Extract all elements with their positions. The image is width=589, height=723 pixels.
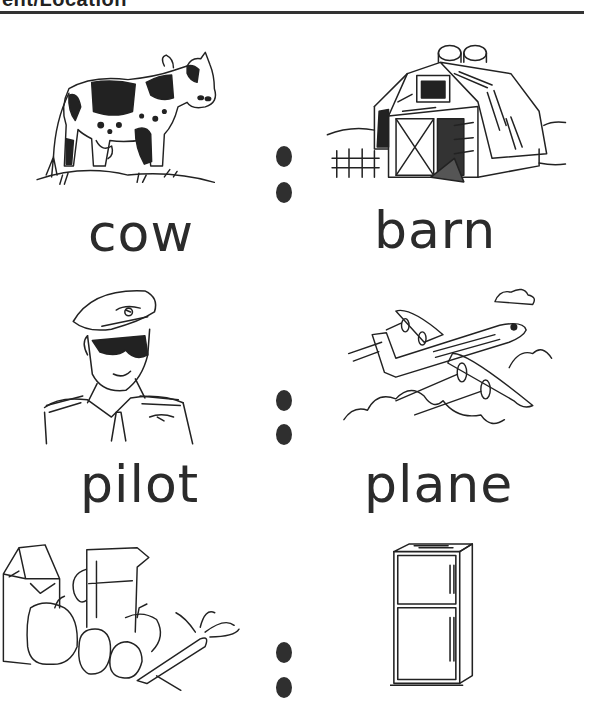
cow-illustration <box>28 36 228 196</box>
colon-dot <box>276 642 292 663</box>
word-plane: plane <box>364 458 513 510</box>
colon-dot <box>276 424 292 445</box>
plane-illustration <box>335 278 570 448</box>
word-cow: cow <box>88 207 194 259</box>
word-pilot: pilot <box>80 458 199 510</box>
pilot-illustration <box>35 282 207 447</box>
header-rule <box>0 11 584 14</box>
barn-illustration <box>315 36 575 196</box>
food-groceries-illustration <box>0 540 255 700</box>
colon-dot <box>276 182 292 203</box>
colon-dot <box>276 390 292 411</box>
colon-dot <box>276 146 292 167</box>
header-title: ent/Location <box>2 0 127 11</box>
colon-dot <box>276 677 292 698</box>
refrigerator-illustration <box>390 540 482 695</box>
word-barn: barn <box>374 204 496 256</box>
